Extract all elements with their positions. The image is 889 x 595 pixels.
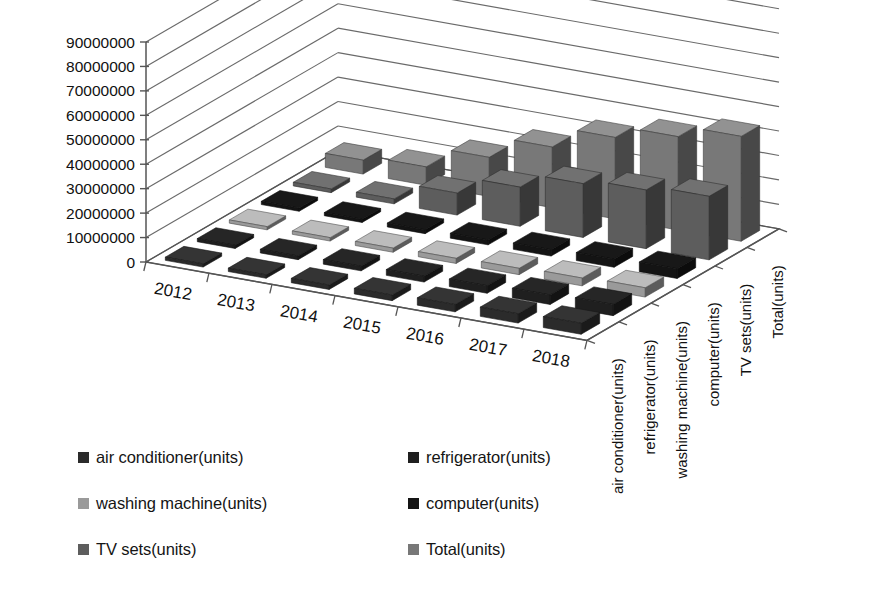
bar-air-conditioner-units--2014 xyxy=(291,268,347,290)
y-axis-tick-label: 0 xyxy=(126,254,135,271)
legend-swatch-icon xyxy=(78,498,89,509)
y-axis-tick-label: 30000000 xyxy=(66,180,135,197)
bar-tv-sets-units--2016 xyxy=(545,166,601,237)
bar-tv-sets-units--2013 xyxy=(356,181,412,203)
bar-air-conditioner-units--2015 xyxy=(354,278,410,301)
x-axis-year-label: 2017 xyxy=(468,335,509,360)
x-axis-year-label: 2015 xyxy=(342,312,383,337)
x-axis-year-label: 2014 xyxy=(279,301,320,326)
y-axis-labels-group: 0100000002000000030000000400000005000000… xyxy=(66,34,135,271)
legend-item[interactable]: Total(units) xyxy=(408,540,506,559)
bar-air-conditioner-units--2016 xyxy=(417,287,473,312)
depth-axis-series-label: refrigerator(units) xyxy=(641,340,658,455)
depth-axis-series-label: Total(units) xyxy=(769,265,786,338)
legend-item-label: Total(units) xyxy=(426,540,506,559)
legend-item[interactable]: TV sets(units) xyxy=(78,540,196,559)
x-axis-year-label: 2013 xyxy=(216,290,257,315)
legend-item-label: computer(units) xyxy=(426,494,539,513)
bar-air-conditioner-units--2013 xyxy=(228,257,284,278)
y-axis-tick-label: 40000000 xyxy=(66,156,135,173)
bar-washing-machine-units--2016 xyxy=(481,251,537,275)
legend-swatch-icon xyxy=(408,544,419,555)
bar-refrigerator-units--2012 xyxy=(197,228,253,249)
bar-tv-sets-units--2018 xyxy=(671,179,727,260)
legend-item[interactable]: washing machine(units) xyxy=(78,494,267,513)
bar-computer-units--2017 xyxy=(576,242,632,268)
y-axis-tick-label: 70000000 xyxy=(66,82,135,99)
bar-refrigerator-units--2014 xyxy=(323,249,379,271)
legend-item-label: refrigerator(units) xyxy=(426,448,551,467)
bar-air-conditioner-units--2012 xyxy=(165,246,221,267)
y-axis-tick-label: 80000000 xyxy=(66,58,135,75)
bar-total-units--2012 xyxy=(325,143,381,174)
legend-swatch-icon xyxy=(78,544,89,555)
legend-swatch-icon xyxy=(408,498,419,509)
bar-tv-sets-units--2015 xyxy=(482,170,538,227)
bar-computer-units--2014 xyxy=(387,212,443,233)
x-axis-year-label: 2012 xyxy=(153,279,194,304)
y-axis-tick-label: 20000000 xyxy=(66,205,135,222)
bar-computer-units--2015 xyxy=(450,222,506,244)
bar-computer-units--2012 xyxy=(261,191,317,212)
bar-washing-machine-units--2012 xyxy=(229,209,285,230)
chart-legend: air conditioner(units)refrigerator(units… xyxy=(78,448,678,568)
legend-item[interactable]: computer(units) xyxy=(408,494,539,513)
legend-item[interactable]: air conditioner(units) xyxy=(78,448,243,467)
bar-refrigerator-units--2013 xyxy=(260,238,316,259)
legend-swatch-icon xyxy=(78,452,89,463)
bar-tv-sets-units--2014 xyxy=(419,176,475,216)
legend-swatch-icon xyxy=(408,452,419,463)
bar-tv-sets-units--2017 xyxy=(608,172,664,248)
y-axis-tick-label: 90000000 xyxy=(66,34,135,51)
legend-item-label: air conditioner(units) xyxy=(96,448,243,467)
y-axis-tick-label: 10000000 xyxy=(66,229,135,246)
chart-page: 0100000002000000030000000400000005000000… xyxy=(0,0,889,595)
x-axis-year-label: 2018 xyxy=(531,346,572,371)
bar-washing-machine-units--2014 xyxy=(355,231,411,253)
y-axis-tick-label: 50000000 xyxy=(66,131,135,148)
bar-washing-machine-units--2015 xyxy=(418,241,474,264)
depth-axis-series-label: TV sets(units) xyxy=(737,284,754,377)
bar-computer-units--2016 xyxy=(513,232,569,256)
depth-axis-series-label: computer(units) xyxy=(705,302,722,406)
bar-tv-sets-units--2012 xyxy=(293,171,349,192)
legend-item-label: TV sets(units) xyxy=(96,540,196,559)
bar-refrigerator-units--2015 xyxy=(386,259,442,282)
bar-refrigerator-units--2016 xyxy=(449,268,505,293)
bar-computer-units--2013 xyxy=(324,202,380,223)
bar-washing-machine-units--2013 xyxy=(292,220,348,241)
x-axis-year-label: 2016 xyxy=(405,324,446,349)
legend-item-label: washing machine(units) xyxy=(96,494,267,513)
legend-item[interactable]: refrigerator(units) xyxy=(408,448,551,467)
y-axis-tick-label: 60000000 xyxy=(66,107,135,124)
